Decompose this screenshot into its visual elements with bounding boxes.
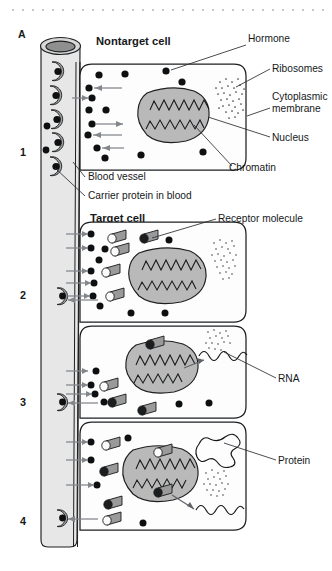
vessel-opening-lumen [46,41,75,52]
hormone-in-blood [43,147,50,154]
target-cell-4 [66,422,246,530]
hormone-action-diagram: A [0,0,332,571]
nucleus-2 [129,248,206,304]
figure-root: A [0,0,332,571]
nontarget-cell [72,64,246,170]
label-cytoplasmic-membrane-line1: Cytoplasmic [272,91,327,102]
top-scan-rule [12,9,324,11]
step-numbers: 1 2 3 4 [20,146,26,527]
hormone-in-blood [44,123,51,130]
label-ribosomes: Ribosomes [272,63,323,74]
nontarget-cell-title: Nontarget cell [96,35,171,47]
label-cytoplasmic-membrane-line2: membrane [272,103,321,114]
label-blood-vessel: Blood vessel [88,171,146,182]
label-carrier-protein: Carrier protein in blood [88,190,192,201]
step-number-1: 1 [20,146,26,158]
target-cell-3 [66,326,247,418]
step-number-3: 3 [20,396,26,408]
step-number-2: 2 [20,289,26,301]
nucleus-4 [123,444,198,502]
label-receptor-molecule: Receptor molecule [218,213,303,224]
label-hormone: Hormone [248,33,290,44]
label-protein: Protein [278,455,310,466]
label-nucleus: Nucleus [272,132,309,143]
label-chromatin: Chromatin [229,162,276,173]
nucleus-1 [138,88,209,143]
label-rna: RNA [278,373,300,384]
panel-letter: A [18,28,26,40]
step-number-4: 4 [20,515,26,527]
